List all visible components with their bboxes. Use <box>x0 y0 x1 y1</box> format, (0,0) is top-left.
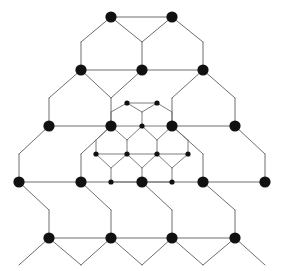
inner-lattice-node <box>124 151 129 156</box>
outer-lattice-node <box>229 120 240 131</box>
outer-lattice-node <box>13 176 24 187</box>
lattice-canvas <box>0 0 290 271</box>
inner-lattice-node <box>154 100 159 105</box>
outer-lattice-node <box>229 232 240 243</box>
inner-lattice-node <box>139 123 144 128</box>
outer-lattice-node <box>75 64 86 75</box>
inner-lattice-node <box>108 179 113 184</box>
outer-lattice-node <box>43 232 54 243</box>
outer-lattice-node <box>259 176 270 187</box>
outer-lattice-node <box>166 232 177 243</box>
outer-lattice-node <box>166 11 177 22</box>
outer-lattice-node <box>105 120 116 131</box>
inner-lattice-node <box>124 100 129 105</box>
figure-background <box>0 0 290 271</box>
inner-lattice-node <box>169 179 174 184</box>
outer-lattice-node <box>43 120 54 131</box>
outer-lattice-node <box>105 232 116 243</box>
outer-lattice-node <box>197 176 208 187</box>
inner-lattice-node <box>154 151 159 156</box>
outer-lattice-node <box>105 11 116 22</box>
outer-lattice-node <box>197 64 208 75</box>
lattice-figure <box>0 0 290 271</box>
inner-lattice-node <box>185 151 190 156</box>
outer-lattice-node <box>136 64 147 75</box>
outer-lattice-node <box>136 176 147 187</box>
inner-lattice-node <box>93 151 98 156</box>
outer-lattice-node <box>166 120 177 131</box>
outer-lattice-node <box>75 176 86 187</box>
